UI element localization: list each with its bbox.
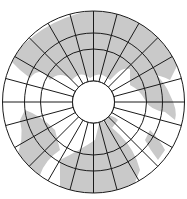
meridian-line	[6, 78, 74, 96]
polar-map	[0, 0, 187, 199]
pole-circle	[73, 81, 115, 123]
